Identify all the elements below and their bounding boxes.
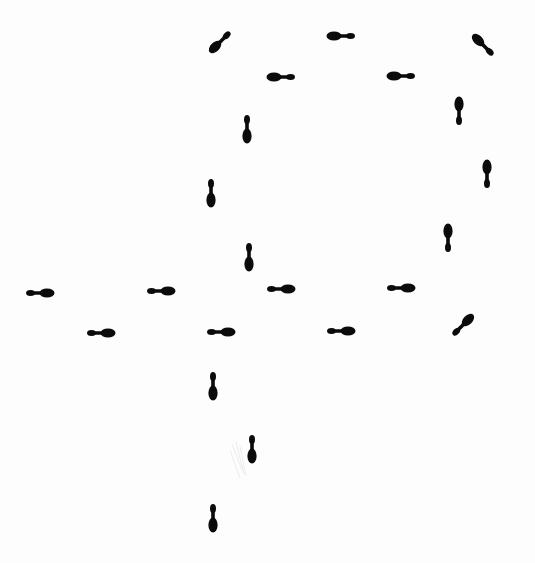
- footprint-icon: [207, 327, 236, 336]
- footprint-icon: [267, 72, 296, 81]
- footprint-diagram: [0, 0, 535, 563]
- footprint-icon: [469, 31, 496, 58]
- footprint-icon: [147, 286, 176, 295]
- footprint-icon: [454, 97, 463, 126]
- footprint-icon: [267, 284, 296, 293]
- footprint-icon: [387, 283, 416, 292]
- footprint-icon: [206, 179, 215, 208]
- footprint-icon: [208, 372, 217, 401]
- footprint-icon: [327, 326, 356, 335]
- footprint-icon: [208, 504, 217, 533]
- footprint-icon: [327, 31, 356, 40]
- footprint-icon: [482, 160, 491, 189]
- footprint-icon: [26, 288, 55, 297]
- footprint-icon: [450, 311, 477, 338]
- footprint-icon: [206, 29, 233, 56]
- footprint-icon: [242, 115, 251, 144]
- footprint-icon: [87, 328, 116, 337]
- footprint-icon: [244, 243, 253, 272]
- paper-smudge: [228, 440, 258, 480]
- footprints-layer: [26, 29, 496, 533]
- footprint-icon: [387, 71, 416, 80]
- footprint-icon: [443, 224, 452, 253]
